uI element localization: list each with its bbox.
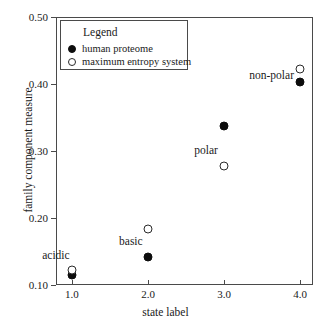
data-point-open xyxy=(67,266,76,275)
legend-entry-human-proteome: human proteome xyxy=(68,42,153,55)
legend: Legend human proteome maximum entropy sy… xyxy=(60,20,188,70)
y-tick-mark xyxy=(51,17,56,18)
y-tick-mark xyxy=(51,285,56,286)
data-point-filled xyxy=(296,77,305,86)
y-axis-title: family component measure xyxy=(22,60,34,240)
x-tick-mark xyxy=(72,280,73,285)
data-point-filled xyxy=(144,252,153,261)
annotation-label: basic xyxy=(119,235,143,247)
annotation-label: acidic xyxy=(42,249,69,261)
open-circle-icon xyxy=(68,58,76,66)
y-tick-mark xyxy=(51,151,56,152)
scatter-chart-figure: 1.02.03.04.00.100.200.300.400.50 acidicb… xyxy=(0,0,331,333)
annotation-label: polar xyxy=(194,144,218,156)
x-tick-label: 3.0 xyxy=(217,288,231,300)
x-tick-mark xyxy=(224,280,225,285)
y-tick-mark xyxy=(51,218,56,219)
filled-circle-icon xyxy=(68,45,76,53)
data-point-open xyxy=(296,65,305,74)
y-tick-label: 0.50 xyxy=(18,11,48,23)
legend-entry-label: maximum entropy system xyxy=(82,56,191,67)
legend-title: Legend xyxy=(83,26,117,38)
data-point-open xyxy=(220,162,229,171)
legend-entry-maximum-entropy-system: maximum entropy system xyxy=(68,55,191,68)
x-axis-title: state label xyxy=(0,306,331,318)
x-tick-label: 1.0 xyxy=(65,288,79,300)
y-tick-mark xyxy=(51,84,56,85)
x-tick-label: 2.0 xyxy=(141,288,155,300)
data-point-filled xyxy=(220,121,229,130)
x-tick-label: 4.0 xyxy=(293,288,307,300)
annotation-label: non-polar xyxy=(249,69,294,81)
y-tick-label: 0.10 xyxy=(18,279,48,291)
x-tick-mark xyxy=(300,280,301,285)
x-tick-mark xyxy=(148,280,149,285)
data-point-open xyxy=(144,225,153,234)
legend-entry-label: human proteome xyxy=(82,43,153,54)
